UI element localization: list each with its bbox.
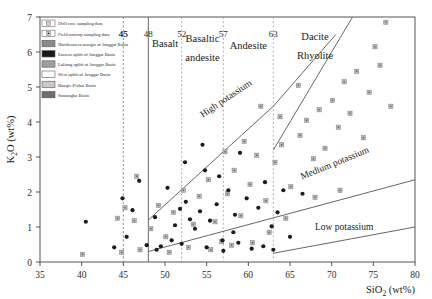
data-point-center [165, 236, 166, 237]
data-point-center [249, 184, 250, 185]
x-axis-title-main: SiO [366, 284, 383, 295]
data-point-center [208, 179, 209, 180]
data-point [120, 196, 124, 200]
legend-swatch-marker [47, 21, 51, 25]
legend-label: Luliang uplift of Junggar Basin [58, 62, 116, 67]
legend-label: Northeastern margin of Junggar Basin [58, 42, 129, 47]
boundary-tick-label-63: 63 [269, 29, 279, 39]
data-point [165, 186, 169, 190]
legend-item: Northeastern margin of Junggar Basin [42, 40, 129, 46]
data-point-center [173, 212, 174, 213]
x-tick-label-75: 75 [369, 270, 379, 280]
data-point [159, 244, 163, 248]
x-tick-label-70: 70 [327, 270, 337, 280]
data-point-center [279, 116, 280, 117]
data-point-center [158, 205, 159, 206]
field-label-andesite: andesite [185, 52, 220, 63]
x-tick-label-65: 65 [285, 270, 295, 280]
data-point [217, 174, 221, 178]
x-tick-label-35: 35 [35, 270, 45, 280]
x-axis-title-unit: (wt%) [386, 284, 415, 296]
x-axis: 35404550556065707580SiO2 (wt%) [35, 262, 420, 298]
data-point-center [82, 254, 83, 255]
data-point [153, 215, 157, 219]
x-tick-label-60: 60 [244, 270, 254, 280]
data-point-center [314, 197, 315, 198]
legend-item: Santanghu Basin [42, 91, 90, 97]
legend-label: West uplift of Junggar Basin [58, 72, 111, 77]
x-tick-label-55: 55 [202, 270, 212, 280]
data-point [300, 192, 304, 196]
data-point-center [265, 200, 266, 201]
legend-swatch [42, 81, 55, 87]
data-point [200, 143, 204, 147]
data-point [112, 245, 116, 249]
data-point [238, 151, 242, 155]
data-point-center [313, 158, 314, 159]
data-point-center [390, 106, 391, 107]
data-point [208, 219, 212, 223]
data-point-center [285, 218, 286, 219]
data-point-center [369, 92, 370, 93]
data-point [205, 245, 209, 249]
data-point-center [306, 120, 307, 121]
data-point-center [379, 65, 380, 66]
data-point [183, 160, 187, 164]
data-point-center [324, 148, 325, 149]
data-point-center [234, 170, 235, 171]
legend-swatch [42, 91, 55, 97]
y-axis-title-main2: O (wt%) [5, 115, 17, 152]
field-label-dacite: Dacite [301, 31, 329, 42]
data-point [288, 235, 292, 239]
data-point [130, 208, 134, 212]
data-point-center [269, 232, 270, 233]
boundary-tick-label-57: 57 [219, 29, 229, 39]
data-point [233, 213, 237, 217]
data-point-center [121, 252, 122, 253]
legend-item: Field outcrop sampling data [42, 30, 109, 36]
data-point [84, 220, 88, 224]
legend-swatch [42, 61, 55, 67]
data-point [215, 202, 219, 206]
data-point-center [244, 141, 245, 142]
data-point-center [374, 46, 375, 47]
data-point-center [338, 127, 339, 128]
tas-k2o-classification-chart: 454852576345BasaltBasalticandesiteAndesi… [0, 0, 432, 299]
data-point-center [224, 151, 225, 152]
legend-swatch [42, 71, 55, 77]
series-label-low-potassium: Low potassium [315, 222, 374, 232]
boundary-tick-label-45: 45 [119, 29, 129, 39]
data-point [275, 210, 279, 214]
y-axis: 01234567K2O (wt%) [5, 13, 40, 268]
data-point [226, 188, 230, 192]
legend-swatch [42, 40, 55, 46]
data-point [170, 238, 174, 242]
legend-label: Drill core sampling data [58, 21, 103, 26]
data-point [256, 206, 260, 210]
y-tick-label-0: 0 [27, 258, 32, 268]
data-point-center [349, 113, 350, 114]
data-point [261, 244, 265, 248]
data-point-center [227, 193, 228, 194]
data-point [245, 196, 249, 200]
field-label-basaltic: Basaltic [186, 33, 220, 44]
x-tick-label-50: 50 [160, 270, 170, 280]
data-point-center [299, 135, 300, 136]
data-point [145, 243, 149, 247]
data-point [155, 248, 159, 252]
y-axis-title: K2O (wt%) [5, 115, 19, 163]
data-point-center [231, 245, 232, 246]
data-point [184, 200, 188, 204]
data-point [188, 217, 192, 221]
field-label-andesite: Andesite [230, 40, 268, 51]
data-point [180, 242, 184, 246]
data-point-center [214, 221, 215, 222]
data-point-center [150, 228, 151, 229]
data-point [271, 248, 275, 252]
data-point-center [274, 162, 275, 163]
field-label-basalt: Basalt [152, 38, 178, 49]
x-tick-label-40: 40 [77, 270, 87, 280]
data-point [125, 235, 129, 239]
data-point-center [199, 196, 200, 197]
legend-label: Santanghu Basin [58, 93, 90, 98]
